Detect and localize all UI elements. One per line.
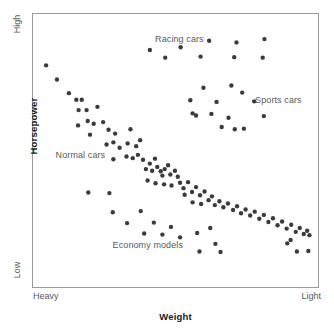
- data-point: [239, 211, 243, 215]
- data-point: [160, 173, 164, 177]
- data-point: [307, 233, 311, 237]
- data-point: [125, 141, 129, 145]
- data-point: [162, 167, 166, 171]
- y-axis-max-tick-label: High: [12, 7, 22, 41]
- data-point: [194, 185, 198, 189]
- data-point: [86, 190, 90, 194]
- data-point: [111, 157, 115, 161]
- data-point: [138, 138, 142, 142]
- data-point: [221, 205, 225, 209]
- data-point: [150, 169, 154, 173]
- data-point: [197, 249, 201, 253]
- data-point: [104, 142, 108, 146]
- data-point: [101, 120, 105, 124]
- data-point: [206, 198, 210, 202]
- data-point: [144, 167, 148, 171]
- data-point: [124, 154, 128, 158]
- data-point: [231, 208, 235, 212]
- annotation-normal-cars: Normal cars: [56, 150, 106, 160]
- data-point: [158, 169, 162, 173]
- data-point: [262, 114, 266, 118]
- data-point: [186, 180, 190, 184]
- data-point: [284, 226, 288, 230]
- data-point: [139, 209, 143, 213]
- data-point: [275, 223, 279, 227]
- annotation-sports-cars: Sports cars: [255, 95, 302, 105]
- data-point: [74, 98, 78, 102]
- data-point: [202, 189, 206, 193]
- data-point: [210, 194, 214, 198]
- data-point: [153, 181, 157, 185]
- data-point: [160, 232, 164, 236]
- annotation-economy-models: Economy models: [113, 240, 183, 250]
- data-point: [148, 161, 152, 165]
- data-point: [44, 63, 48, 67]
- data-point: [178, 235, 182, 239]
- data-point: [262, 213, 266, 217]
- data-point: [111, 210, 115, 214]
- data-point: [153, 157, 157, 161]
- data-point: [253, 209, 257, 213]
- data-point: [229, 83, 233, 87]
- data-point: [67, 91, 71, 95]
- y-axis-min-tick-label: Low: [12, 253, 22, 287]
- data-point: [198, 193, 202, 197]
- data-point: [141, 158, 145, 162]
- data-point: [214, 100, 218, 104]
- data-point: [235, 204, 239, 208]
- data-point: [190, 111, 194, 115]
- data-point: [306, 249, 310, 253]
- data-point: [142, 231, 146, 235]
- data-point: [243, 207, 247, 211]
- data-point: [136, 153, 140, 157]
- data-point: [113, 131, 117, 135]
- data-point: [155, 165, 159, 169]
- data-point: [217, 199, 221, 203]
- data-point: [226, 201, 230, 205]
- data-point: [280, 219, 284, 223]
- data-point: [181, 186, 185, 190]
- data-point: [190, 190, 194, 194]
- data-point: [188, 98, 192, 102]
- data-point: [168, 172, 172, 176]
- data-point: [226, 116, 230, 120]
- data-point: [302, 232, 306, 236]
- data-point: [199, 202, 203, 206]
- x-axis-max-tick-label: Light: [301, 291, 321, 301]
- data-point: [163, 55, 167, 59]
- data-point: [233, 127, 237, 131]
- plot-area: Racing cars Sports cars Normal cars Econ…: [32, 13, 319, 288]
- data-point: [166, 163, 170, 167]
- data-point: [169, 183, 173, 187]
- data-point: [201, 86, 205, 90]
- data-point: [261, 55, 265, 59]
- data-point: [176, 175, 180, 179]
- data-point: [76, 123, 80, 127]
- data-point: [107, 191, 111, 195]
- data-point: [173, 169, 177, 173]
- data-point: [198, 54, 202, 58]
- data-point: [232, 55, 236, 59]
- series-sports-cars: [188, 83, 266, 131]
- data-point: [234, 40, 238, 44]
- data-point: [242, 126, 246, 130]
- data-point: [111, 140, 115, 144]
- data-point: [162, 182, 166, 186]
- data-point: [298, 226, 302, 230]
- annotation-racing-cars: Racing cars: [155, 34, 204, 44]
- data-point: [148, 48, 152, 52]
- data-point: [86, 119, 90, 123]
- data-point: [76, 108, 80, 112]
- data-point: [295, 249, 299, 253]
- data-point: [213, 242, 217, 246]
- x-axis-min-tick-label: Heavy: [33, 291, 59, 301]
- data-point: [219, 125, 223, 129]
- data-point: [88, 132, 92, 136]
- data-point: [178, 181, 182, 185]
- data-point: [266, 220, 270, 224]
- data-point: [294, 230, 298, 234]
- scatter-chart-figure: Racing cars Sports cars Normal cars Econ…: [0, 0, 334, 333]
- data-point: [240, 90, 244, 94]
- data-point: [125, 221, 129, 225]
- data-point: [152, 220, 156, 224]
